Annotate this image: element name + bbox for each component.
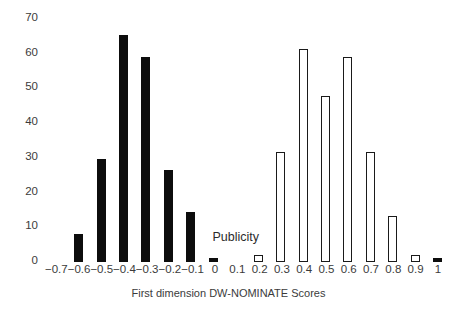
bar-0p9[interactable] bbox=[411, 255, 420, 262]
bar-band bbox=[359, 14, 381, 262]
x-axis-tick-12: 0.5 bbox=[315, 264, 337, 276]
y-axis-tick-70: 70 bbox=[25, 12, 38, 24]
bar-0p8[interactable] bbox=[388, 216, 397, 262]
bar-1[interactable] bbox=[433, 258, 442, 262]
bar-band bbox=[135, 14, 157, 262]
y-axis-tick-20: 20 bbox=[25, 186, 38, 198]
bar-series bbox=[45, 14, 449, 262]
plot-area: 70 60 50 40 30 20 10 0 Publicity bbox=[45, 14, 449, 262]
bar-neg0p3[interactable] bbox=[141, 57, 150, 262]
y-axis-tick-60: 60 bbox=[25, 47, 38, 59]
bar-band bbox=[202, 14, 224, 262]
x-axis-title: First dimension DW-NOMINATE Scores bbox=[0, 287, 457, 299]
x-axis-tick-17: 1 bbox=[427, 264, 449, 276]
x-axis-tick-0: −0.7 bbox=[45, 264, 68, 276]
x-axis-tick-15: 0.8 bbox=[382, 264, 404, 276]
chart-figure: 70 60 50 40 30 20 10 0 Publicity −0.7−0.… bbox=[0, 0, 457, 312]
bar-neg0p1[interactable] bbox=[186, 212, 195, 262]
bar-0p4[interactable] bbox=[299, 49, 308, 262]
annotation-label: Publicity bbox=[212, 230, 259, 244]
y-axis-tick-30: 30 bbox=[25, 151, 38, 163]
y-axis-tick-40: 40 bbox=[25, 116, 38, 128]
bar-band bbox=[225, 14, 247, 262]
bar-0p7[interactable] bbox=[366, 152, 375, 262]
x-axis-tick-6: −0.1 bbox=[181, 264, 204, 276]
bar-band bbox=[382, 14, 404, 262]
bar-band bbox=[90, 14, 112, 262]
bar-band bbox=[337, 14, 359, 262]
bar-band bbox=[67, 14, 89, 262]
bar-neg0p5[interactable] bbox=[97, 159, 106, 262]
x-axis-tick-14: 0.7 bbox=[360, 264, 382, 276]
y-axis-tick-0: 0 bbox=[32, 255, 38, 267]
bar-band bbox=[112, 14, 134, 262]
bar-neg0p6[interactable] bbox=[74, 234, 83, 262]
bar-band bbox=[157, 14, 179, 262]
bar-0p3[interactable] bbox=[276, 152, 285, 262]
x-axis-tick-10: 0.3 bbox=[271, 264, 293, 276]
x-axis-tick-5: −0.2 bbox=[159, 264, 182, 276]
x-axis-ticks: −0.7−0.6−0.5−0.4−0.3−0.2−0.100.10.20.30.… bbox=[45, 264, 449, 276]
y-axis-tick-50: 50 bbox=[25, 82, 38, 94]
bar-0p2[interactable] bbox=[254, 255, 263, 262]
bar-band bbox=[247, 14, 269, 262]
x-axis-tick-1: −0.6 bbox=[68, 264, 91, 276]
bar-neg0p4[interactable] bbox=[119, 35, 128, 262]
x-axis-tick-8: 0.1 bbox=[226, 264, 248, 276]
x-axis-tick-9: 0.2 bbox=[248, 264, 270, 276]
x-axis-tick-3: −0.4 bbox=[113, 264, 136, 276]
bar-0p5[interactable] bbox=[321, 96, 330, 263]
x-axis-tick-16: 0.9 bbox=[404, 264, 426, 276]
x-axis-tick-7: 0 bbox=[204, 264, 226, 276]
bar-0p6[interactable] bbox=[343, 57, 352, 262]
bar-band bbox=[269, 14, 291, 262]
x-axis-tick-11: 0.4 bbox=[293, 264, 315, 276]
bar-0[interactable] bbox=[209, 258, 218, 262]
bar-band bbox=[314, 14, 336, 262]
y-axis-tick-10: 10 bbox=[25, 221, 38, 233]
x-axis-tick-13: 0.6 bbox=[338, 264, 360, 276]
x-axis-tick-4: −0.3 bbox=[136, 264, 159, 276]
bar-band bbox=[292, 14, 314, 262]
bar-band bbox=[45, 14, 67, 262]
bar-band bbox=[426, 14, 448, 262]
x-axis-tick-2: −0.5 bbox=[90, 264, 113, 276]
bar-band bbox=[404, 14, 426, 262]
bar-band bbox=[180, 14, 202, 262]
bar-neg0p2[interactable] bbox=[164, 170, 173, 262]
